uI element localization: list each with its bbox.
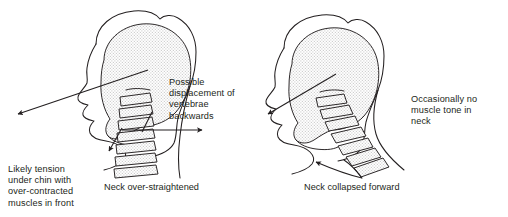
caption-neck-over-straightened: Neck over-straightened [104,182,199,193]
annotation-occasionally-no-muscle-tone: Occasionally no muscle tone in neck [411,94,477,128]
annotation-possible-displacement: Possible displacement of vertebrae backw… [169,77,235,122]
annotation-likely-tension: Likely tension under chin with over-cont… [8,164,74,209]
figure-right-neck-collapsed-forward [266,15,404,178]
caption-neck-collapsed-forward: Neck collapsed forward [304,182,400,193]
